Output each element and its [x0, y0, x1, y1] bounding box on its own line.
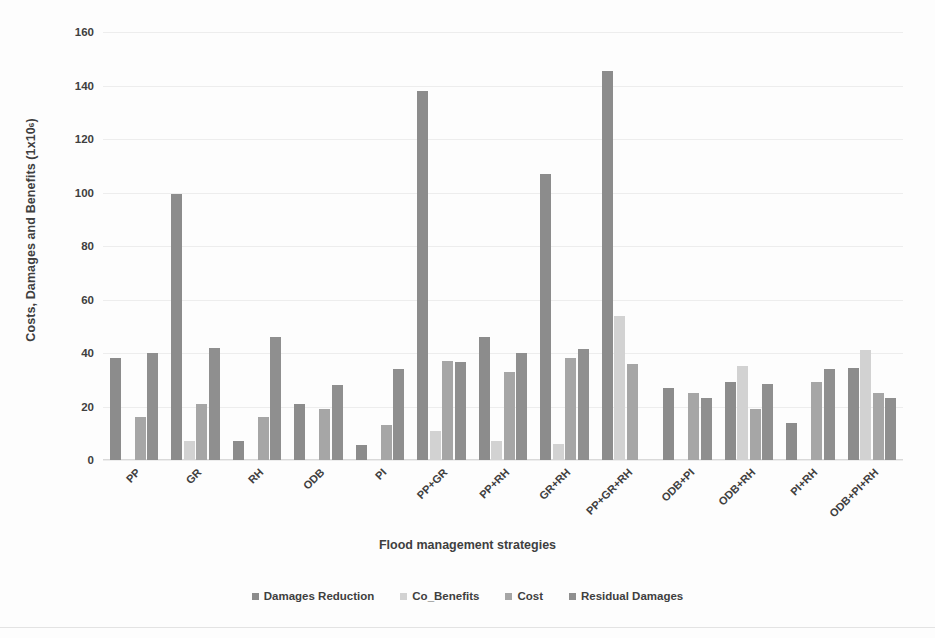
bar-group: [103, 32, 165, 460]
y-axis-title: Costs, Damages and Benefits (1x106): [14, 0, 48, 460]
y-axis-tick-label: 40: [81, 347, 94, 359]
bar: [786, 423, 797, 460]
bar: [504, 372, 515, 460]
legend-item[interactable]: Damages Reduction: [252, 590, 375, 602]
bar: [393, 369, 404, 460]
bar-group: [657, 32, 719, 460]
bar-group: [165, 32, 227, 460]
x-axis-tick: PI+RH: [780, 462, 842, 536]
bar: [110, 358, 121, 460]
bar: [270, 337, 281, 460]
bar: [688, 393, 699, 460]
bar-group: [534, 32, 596, 460]
x-axis-tick: ODB+PI: [657, 462, 719, 536]
bar: [811, 382, 822, 460]
bar: [553, 444, 564, 460]
x-axis-tick: GR: [165, 462, 227, 536]
bar: [196, 404, 207, 460]
y-axis-tick-label: 0: [88, 454, 94, 466]
bar: [627, 364, 638, 460]
x-axis-ticks: PPGRRHODBPIPP+GRPP+RHGR+RHPP+GR+RHODB+PI…: [103, 462, 903, 536]
legend-item[interactable]: Cost: [505, 590, 543, 602]
bar: [455, 362, 466, 460]
y-axis-title-text: Costs, Damages and Benefits (1x10: [24, 127, 38, 342]
y-axis-tick-label: 120: [75, 133, 94, 145]
y-axis-tick-label: 60: [81, 294, 94, 306]
x-axis-tick: RH: [226, 462, 288, 536]
legend-item-label: Co_Benefits: [412, 590, 479, 602]
y-axis-title-tail: ): [24, 118, 38, 122]
plot-area: 020406080100120140160: [103, 32, 903, 460]
bar: [602, 71, 613, 460]
legend-item[interactable]: Residual Damages: [569, 590, 683, 602]
bar: [209, 348, 220, 460]
bar: [319, 409, 330, 460]
y-axis-tick-label: 20: [81, 401, 94, 413]
bar: [135, 417, 146, 460]
x-axis-tick-label: GR+RH: [537, 466, 573, 502]
x-axis-tick-label: RH: [246, 466, 266, 486]
legend-swatch-icon: [505, 593, 512, 600]
x-axis-title: Flood management strategies: [0, 538, 935, 552]
bar-group: [226, 32, 288, 460]
bar-group: [718, 32, 780, 460]
bar: [258, 417, 269, 460]
legend-swatch-icon: [252, 593, 259, 600]
y-axis-title-exponent: 6: [27, 123, 36, 128]
legend-item[interactable]: Co_Benefits: [400, 590, 479, 602]
bar: [725, 382, 736, 460]
x-axis-tick-label: GR: [184, 466, 204, 486]
bar: [540, 174, 551, 460]
bar: [442, 361, 453, 460]
x-axis-tick: PP+RH: [472, 462, 534, 536]
legend-item-label: Damages Reduction: [264, 590, 375, 602]
legend-item-label: Residual Damages: [581, 590, 683, 602]
bar: [184, 441, 195, 460]
bar-group: [841, 32, 903, 460]
bar: [873, 393, 884, 460]
x-axis-tick: ODB: [288, 462, 350, 536]
bar: [565, 358, 576, 460]
bar: [294, 404, 305, 460]
bar: [578, 349, 589, 460]
y-axis-tick-label: 80: [81, 240, 94, 252]
y-axis-tick-label: 140: [75, 80, 94, 92]
bar: [417, 91, 428, 460]
x-axis-tick-label: ODB+RH: [716, 466, 758, 508]
chart-legend: Damages ReductionCo_BenefitsCostResidual…: [0, 590, 935, 602]
x-axis-tick: PP: [103, 462, 165, 536]
bar-group: [411, 32, 473, 460]
x-axis-tick-label: ODB+PI: [658, 466, 696, 504]
x-axis-tick: PP+GR: [411, 462, 473, 536]
bottom-divider: [0, 627, 935, 628]
bar: [171, 194, 182, 460]
legend-swatch-icon: [569, 593, 576, 600]
x-axis-tick-label: PP: [123, 466, 142, 485]
x-axis-tick-label: PI+RH: [787, 466, 819, 498]
bar: [885, 398, 896, 460]
bar: [491, 441, 502, 460]
bar: [663, 388, 674, 460]
bar-group: [288, 32, 350, 460]
bar: [381, 425, 392, 460]
legend-swatch-icon: [400, 593, 407, 600]
bar: [762, 384, 773, 460]
bar-chart-figure: Costs, Damages and Benefits (1x106) 0204…: [0, 0, 935, 638]
x-axis-tick: GR+RH: [534, 462, 596, 536]
y-axis-tick-label: 100: [75, 187, 94, 199]
bar: [479, 337, 490, 460]
bar: [516, 353, 527, 460]
bar: [147, 353, 158, 460]
bar: [614, 316, 625, 460]
bar: [701, 398, 712, 460]
bar-group: [349, 32, 411, 460]
bar-group: [780, 32, 842, 460]
legend-item-label: Cost: [517, 590, 543, 602]
gridline: [103, 460, 903, 461]
bar: [860, 350, 871, 460]
bar: [233, 441, 244, 460]
x-axis-tick: PP+GR+RH: [595, 462, 657, 536]
x-axis-tick: PI: [349, 462, 411, 536]
bar: [332, 385, 343, 460]
bar: [737, 366, 748, 460]
